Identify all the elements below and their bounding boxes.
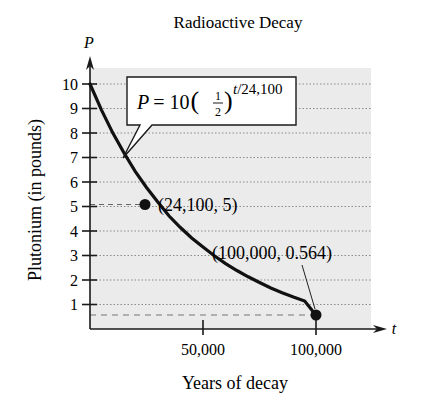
equation-lhs-var: P	[136, 91, 149, 113]
y-tick-label: 8	[70, 125, 78, 142]
y-tick-label: 1	[70, 296, 78, 313]
svg-text:): )	[224, 86, 233, 115]
y-tick-label: 9	[70, 100, 78, 117]
x-axis-title: Years of decay	[182, 373, 288, 393]
svg-text:P= 10(: P= 10(	[136, 86, 199, 115]
equation-numerator: 1	[215, 89, 221, 103]
equation-denominator: 2	[215, 105, 221, 119]
point-24100-5	[140, 199, 151, 210]
y-tick-label: 7	[70, 149, 78, 166]
y-tick-label: 4	[70, 223, 78, 240]
radioactive-decay-chart: Radioactive Decay P t	[0, 0, 427, 409]
point-100000-0564	[311, 310, 322, 321]
x-tick-label-100000: 100,000	[290, 341, 342, 358]
y-tick-label: 5	[70, 198, 78, 215]
y-tick-label: 3	[70, 247, 78, 264]
svg-text:t/24,100: t/24,100	[233, 81, 283, 97]
x-tick-label-50000: 50,000	[181, 341, 225, 358]
y-tick-label: 6	[70, 174, 78, 191]
y-tick-label: 10	[62, 76, 78, 93]
y-axis-title: Plutonium (in pounds)	[25, 119, 46, 281]
chart-title: Radioactive Decay	[174, 13, 303, 32]
annotation-point1: (24,100, 5)	[158, 195, 238, 216]
annotation-point2: (100,000, 0.564)	[212, 243, 332, 264]
y-tick-label: 2	[70, 272, 78, 289]
x-axis-variable: t	[392, 320, 397, 337]
y-axis-variable: P	[83, 34, 94, 51]
y-tick-labels: 1 2 3 4 5 6 7 8 9 10	[62, 76, 78, 314]
